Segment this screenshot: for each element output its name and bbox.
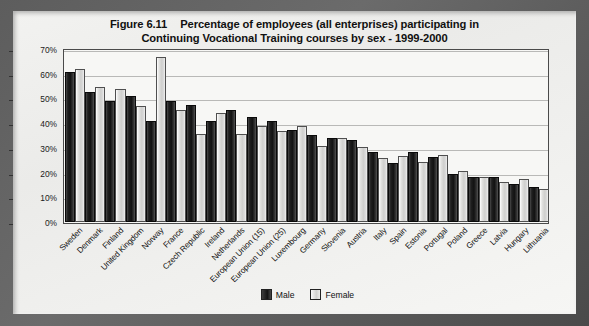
- bar-group: [327, 49, 347, 222]
- bar-female: [519, 179, 529, 222]
- legend-swatch-male-icon: [261, 289, 272, 300]
- bar-group: [307, 49, 327, 222]
- bar-female: [479, 177, 489, 222]
- y-axis-tick-label: 30%: [13, 144, 57, 154]
- bar-female: [418, 162, 428, 222]
- legend-item-male: Male: [261, 289, 295, 300]
- bar-male: [65, 72, 75, 222]
- bar-female: [539, 189, 549, 222]
- figure-title-line1: Percentage of employees (all enterprises…: [180, 18, 479, 30]
- bar-male: [408, 152, 418, 222]
- bar-male: [529, 187, 539, 222]
- bar-female: [277, 131, 287, 222]
- bar-female: [176, 110, 186, 222]
- figure-title-line2: Continuing Vocational Training courses b…: [141, 32, 447, 44]
- y-axis-tick-mark: [9, 224, 13, 225]
- bar-male: [368, 152, 378, 222]
- bar-male: [166, 101, 176, 222]
- bar-group: [489, 49, 509, 222]
- plot-area: 0%10%20%30%40%50%60%70%: [63, 49, 549, 235]
- bar-group: [267, 49, 287, 222]
- bar-female: [95, 87, 105, 222]
- bar-male: [267, 121, 277, 222]
- bar-group: [85, 49, 105, 222]
- bar-group: [126, 49, 146, 222]
- bar-group: [408, 49, 428, 222]
- y-axis-tick-label: 60%: [13, 70, 57, 80]
- bar-male: [226, 110, 236, 222]
- bar-male: [206, 121, 216, 222]
- bar-series-container: [65, 49, 549, 222]
- bar-male: [307, 135, 317, 222]
- bar-female: [257, 126, 267, 222]
- x-axis-tick-label: Italy: [372, 226, 388, 242]
- legend-item-female: Female: [310, 289, 354, 300]
- y-axis-tick-mark: [9, 175, 13, 176]
- bar-male: [448, 174, 458, 222]
- bar-female: [236, 134, 246, 223]
- bar-female: [196, 134, 206, 223]
- x-axis-tick-label: Austria: [344, 226, 368, 250]
- outer-frame: Figure 6.11Percentage of employees (all …: [0, 0, 589, 326]
- y-axis-tick-label: 40%: [13, 119, 57, 129]
- bar-female: [398, 156, 408, 222]
- bar-male: [468, 177, 478, 222]
- bar-female: [75, 69, 85, 222]
- bar-male: [428, 157, 438, 222]
- bar-group: [146, 49, 166, 222]
- bar-group: [448, 49, 468, 222]
- bar-group: [105, 49, 125, 222]
- bar-female: [438, 155, 448, 222]
- legend-label-male: Male: [276, 290, 295, 300]
- bar-female: [357, 147, 367, 222]
- bar-male: [388, 163, 398, 222]
- bar-female: [499, 182, 509, 222]
- bar-group: [65, 49, 85, 222]
- bar-group: [186, 49, 206, 222]
- bar-male: [105, 101, 115, 222]
- bar-male: [186, 105, 196, 222]
- bar-female: [317, 146, 327, 222]
- y-axis-tick-mark: [9, 150, 13, 151]
- bar-group: [347, 49, 367, 222]
- bar-group: [468, 49, 488, 222]
- bar-group: [287, 49, 307, 222]
- bar-group: [529, 49, 549, 222]
- bar-female: [378, 158, 388, 222]
- bar-female: [458, 171, 468, 222]
- y-axis-tick-mark: [9, 100, 13, 101]
- x-axis-tick-label: Greece: [465, 226, 490, 251]
- bar-male: [146, 121, 156, 222]
- bar-female: [297, 126, 307, 222]
- legend-label-female: Female: [325, 290, 354, 300]
- bar-male: [85, 92, 95, 223]
- y-axis-tick-mark: [9, 76, 13, 77]
- bar-male: [489, 177, 499, 222]
- y-axis-tick-mark: [9, 199, 13, 200]
- bar-male: [327, 138, 337, 222]
- legend: Male Female: [13, 289, 589, 300]
- bar-male: [347, 140, 357, 222]
- bar-group: [428, 49, 448, 222]
- bar-female: [337, 138, 347, 222]
- bar-male: [247, 117, 257, 222]
- y-axis-tick-label: 20%: [13, 169, 57, 179]
- y-axis-tick-label: 0%: [13, 218, 57, 228]
- bar-female: [136, 106, 146, 222]
- bar-female: [156, 57, 166, 222]
- bar-group: [368, 49, 388, 222]
- x-axis-tick-label: Norway: [140, 226, 165, 251]
- y-axis-tick-mark: [9, 125, 13, 126]
- chart-panel: Figure 6.11Percentage of employees (all …: [13, 11, 576, 314]
- y-axis-tick-label: 70%: [13, 45, 57, 55]
- y-axis-tick-label: 50%: [13, 94, 57, 104]
- bar-male: [287, 130, 297, 222]
- bar-group: [206, 49, 226, 222]
- bar-male: [509, 184, 519, 222]
- bar-female: [216, 113, 226, 223]
- y-axis-tick-label: 10%: [13, 193, 57, 203]
- bar-group: [247, 49, 267, 222]
- figure-number: Figure 6.11: [110, 18, 167, 30]
- bar-group: [226, 49, 246, 222]
- bar-group: [509, 49, 529, 222]
